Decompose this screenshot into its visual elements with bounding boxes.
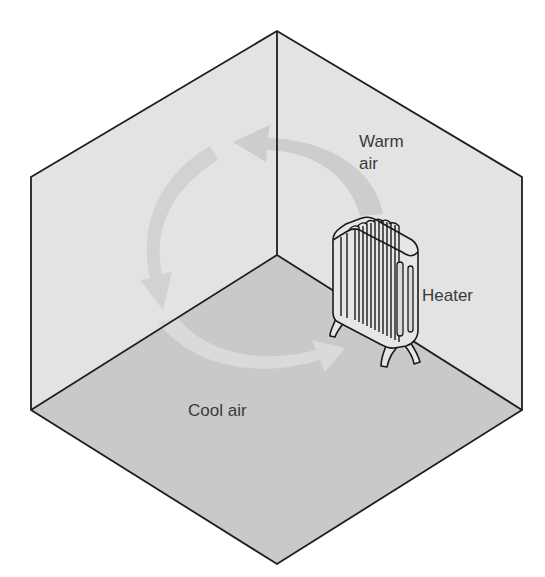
convection-room-diagram: Warm air Heater Cool air [0, 0, 545, 577]
warm-air-label-line1: Warm [359, 132, 404, 151]
cool-air-label: Cool air [188, 401, 247, 420]
heater-label: Heater [422, 286, 473, 305]
warm-air-label-line2: air [359, 154, 378, 173]
